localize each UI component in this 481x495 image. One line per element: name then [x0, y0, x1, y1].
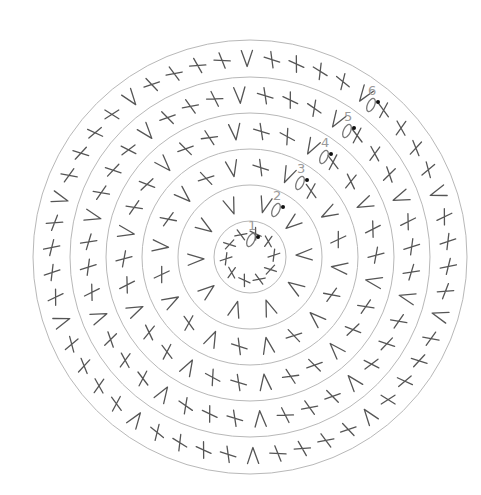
- single-crochet-icon: [439, 233, 456, 250]
- increase-icon: [204, 329, 221, 348]
- increase-icon: [355, 196, 374, 213]
- increase-icon: [117, 225, 135, 239]
- single-crochet-icon: [84, 122, 106, 144]
- single-crochet-icon: [101, 103, 124, 126]
- single-crochet-icon: [46, 288, 65, 307]
- single-crochet-icon: [337, 419, 359, 441]
- increase-icon: [258, 373, 271, 390]
- round-5-start-marker: 5: [341, 109, 356, 139]
- single-crochet-icon: [114, 349, 137, 372]
- increase-icon: [398, 290, 416, 305]
- single-crochet-icon: [213, 51, 231, 69]
- single-crochet-icon: [70, 142, 92, 164]
- single-crochet-icon: [283, 325, 305, 347]
- single-crochet-icon: [420, 328, 441, 349]
- single-crochet-icon: [188, 56, 208, 76]
- increase-icon: [53, 313, 72, 329]
- single-crochet-icon: [277, 127, 297, 147]
- single-crochet-icon: [263, 51, 281, 69]
- single-crochet-icon: [377, 388, 400, 411]
- single-crochet-icon: [178, 312, 201, 335]
- round-1-start-marker: 1: [245, 218, 260, 248]
- single-crochet-icon: [157, 107, 179, 129]
- increase-icon: [285, 278, 305, 296]
- single-crochet-icon: [435, 207, 454, 226]
- ring-6-outline: [33, 40, 467, 474]
- single-crochet-icon: [124, 197, 145, 218]
- single-crochet-icon: [105, 392, 128, 415]
- single-crochet-icon: [390, 117, 413, 140]
- increase-icon: [122, 88, 141, 108]
- single-crochet-icon: [360, 353, 383, 376]
- single-crochet-icon: [116, 251, 132, 267]
- single-crochet-icon: [252, 159, 270, 177]
- chain-icon: [365, 97, 377, 113]
- single-crochet-icon: [180, 96, 201, 117]
- increase-icon: [228, 300, 243, 318]
- increase-icon: [430, 308, 449, 323]
- single-crochet-icon: [194, 440, 213, 459]
- single-crochet-icon: [158, 209, 179, 230]
- round-4-start-marker: 4: [318, 135, 333, 165]
- increase-icon: [326, 340, 345, 359]
- single-crochet-icon: [102, 159, 124, 181]
- single-crochet-icon: [364, 142, 387, 165]
- single-crochet-icon: [146, 422, 168, 444]
- single-crochet-icon: [169, 432, 190, 453]
- single-crochet-icon: [203, 367, 223, 387]
- single-crochet-icon: [332, 71, 354, 93]
- single-crochet-icon: [226, 410, 243, 427]
- single-crochet-icon: [436, 282, 455, 301]
- single-crochet-icon: [175, 138, 197, 160]
- single-crochet-icon: [403, 263, 420, 280]
- increase-icon: [154, 384, 172, 404]
- increase-icon: [51, 191, 70, 206]
- single-crochet-icon: [132, 367, 155, 390]
- increase-icon: [188, 253, 204, 265]
- single-crochet-icon: [91, 182, 112, 203]
- single-crochet-icon: [322, 385, 344, 407]
- increase-icon: [303, 137, 321, 156]
- single-crochet-icon: [175, 395, 196, 416]
- single-crochet-icon: [329, 230, 348, 249]
- single-crochet-icon: [230, 338, 248, 356]
- single-crochet-icon: [418, 159, 439, 180]
- single-crochet-icon: [310, 61, 331, 82]
- increase-icon: [428, 185, 447, 201]
- ring-3-outline: [142, 149, 358, 365]
- single-crochet-icon: [138, 321, 160, 343]
- single-crochet-icon: [408, 350, 430, 372]
- single-crochet-icon: [440, 258, 457, 275]
- increase-icon: [306, 309, 325, 328]
- increase-icon: [229, 123, 242, 140]
- single-crochet-icon: [403, 238, 420, 255]
- round-number-label: 5: [344, 109, 352, 124]
- single-crochet-icon: [368, 247, 384, 263]
- increase-icon: [344, 372, 363, 391]
- increase-icon: [360, 406, 379, 426]
- slip-stitch-icon: [329, 152, 333, 156]
- single-crochet-icon: [237, 273, 251, 287]
- increase-icon: [223, 197, 239, 216]
- single-crochet-icon: [267, 249, 280, 262]
- single-crochet-icon: [342, 318, 364, 340]
- single-crochet-icon: [321, 284, 342, 305]
- increase-icon: [296, 249, 312, 261]
- single-crochet-icon: [304, 354, 326, 376]
- single-crochet-icon: [280, 366, 300, 386]
- increase-icon: [319, 204, 338, 222]
- single-crochet-icon: [253, 123, 270, 140]
- single-crochet-icon: [340, 170, 362, 192]
- round-number-label: 3: [297, 161, 305, 176]
- increase-icon: [254, 410, 266, 427]
- single-crochet-icon: [262, 261, 279, 278]
- stitch-symbols: [43, 50, 456, 463]
- single-crochet-icon: [355, 296, 376, 317]
- single-crochet-icon: [82, 283, 101, 302]
- round-number-label: 2: [273, 188, 281, 203]
- round-6-start-marker: 6: [365, 83, 380, 113]
- single-crochet-icon: [287, 54, 306, 73]
- increase-icon: [174, 186, 193, 205]
- single-crochet-icon: [256, 87, 273, 104]
- single-crochet-icon: [221, 236, 238, 253]
